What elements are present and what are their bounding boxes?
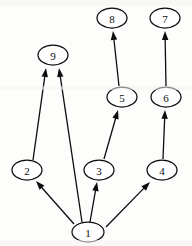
node-label: 1 (85, 227, 91, 239)
edge-shaft (90, 190, 96, 222)
graph-node-5[interactable]: 5 (107, 87, 137, 107)
edge-shaft (41, 187, 74, 224)
graph-edge-3-to-5 (104, 110, 119, 159)
arrowhead-icon (112, 110, 118, 120)
graph-edge-2-to-9 (33, 68, 48, 160)
node-label: 4 (159, 165, 165, 177)
arrowhead-icon (161, 110, 167, 119)
graph-edge-1-to-2 (36, 181, 74, 224)
node-label: 3 (96, 165, 102, 177)
arrowhead-icon (42, 68, 48, 77)
graph-node-1[interactable]: 1 (72, 222, 104, 242)
arrowhead-icon (111, 31, 117, 40)
node-label: 6 (163, 92, 169, 104)
edge-shaft (114, 39, 119, 86)
graph-node-4[interactable]: 4 (147, 160, 177, 180)
graph-edge-6-to-7 (162, 31, 168, 86)
graph-node-7[interactable]: 7 (150, 8, 180, 28)
graph-node-2[interactable]: 2 (12, 160, 42, 180)
graph-edge-1-to-3 (90, 182, 99, 222)
edge-shaft (165, 39, 166, 86)
node-label: 9 (50, 50, 56, 62)
graph-canvas: 879562341 (0, 0, 192, 246)
node-label: 8 (109, 13, 115, 25)
arrowhead-icon (57, 68, 63, 77)
graph-edge-4-to-6 (161, 110, 167, 159)
arrowhead-icon (162, 31, 168, 40)
edge-shaft (60, 76, 82, 222)
node-label: 2 (24, 165, 30, 177)
directed-graph-figure: 879562341 (0, 0, 192, 246)
graph-node-9[interactable]: 9 (38, 45, 68, 65)
node-label: 7 (162, 13, 168, 25)
edge-shaft (163, 118, 165, 159)
graph-edge-5-to-8 (111, 31, 119, 86)
edge-shaft (106, 188, 144, 227)
graph-node-8[interactable]: 8 (97, 8, 127, 28)
graph-edge-1-to-9 (57, 68, 82, 222)
arrowhead-icon (92, 182, 98, 191)
graph-node-6[interactable]: 6 (151, 87, 181, 107)
node-label: 5 (119, 92, 125, 104)
edge-shaft (104, 118, 116, 159)
graph-edge-1-to-4 (106, 182, 150, 227)
graph-node-3[interactable]: 3 (84, 160, 114, 180)
edge-shaft (33, 76, 45, 160)
